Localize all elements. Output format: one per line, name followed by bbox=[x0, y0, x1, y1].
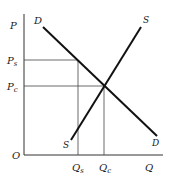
supply-demand-diagram: P D S Ps Pc S D O Qs Qc Q bbox=[0, 0, 172, 179]
supply-label-bottom: S bbox=[63, 140, 69, 150]
pc-label: Pc bbox=[6, 81, 18, 94]
demand-curve bbox=[43, 27, 157, 136]
supply-curve bbox=[71, 27, 141, 140]
qc-label: Qc bbox=[99, 162, 111, 175]
ps-label: Ps bbox=[6, 55, 18, 68]
origin-label: O bbox=[12, 150, 20, 161]
demand-label-top: D bbox=[33, 15, 42, 26]
price-axis-label: P bbox=[9, 20, 17, 31]
quantity-axis-label: Q bbox=[145, 162, 153, 173]
demand-label-bottom: D bbox=[151, 138, 159, 148]
qs-label: Qs bbox=[72, 162, 84, 175]
supply-label-top: S bbox=[143, 15, 149, 25]
